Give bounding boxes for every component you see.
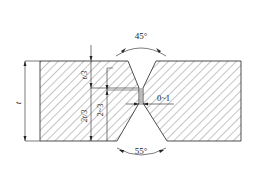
thickness-dimension: t (13, 61, 27, 141)
top-angle-label: 45° (135, 31, 148, 41)
upper-fraction-label: t/3 (80, 71, 89, 79)
thickness-label: t (13, 101, 23, 104)
bottom-angle-dimension: 55° (117, 146, 166, 156)
top-angle-dimension: 45° (116, 31, 166, 56)
weld-joint-diagram: t t/3 2t/3 2~3 0~1 45° 55° (0, 0, 261, 181)
left-plate (40, 61, 139, 141)
root-face-label: 2~3 (96, 104, 105, 116)
root-gap-label: 0~1 (157, 93, 170, 103)
bottom-angle-label: 55° (135, 146, 148, 156)
lower-fraction-label: 2t/3 (80, 110, 89, 122)
